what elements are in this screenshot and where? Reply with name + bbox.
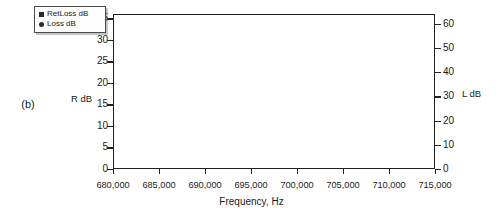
y-tick-right-10: 10 (443, 139, 477, 150)
y-tick-left-15: 15 (74, 98, 108, 109)
chart-legend: RetLoss dB Loss dB (34, 6, 106, 33)
legend-item-retloss: RetLoss dB (39, 9, 102, 19)
round-marker-icon (39, 22, 44, 27)
x-tick-mark (343, 169, 344, 174)
y-tick-right-20: 20 (443, 115, 477, 126)
y-tick-right-50: 50 (443, 42, 477, 53)
y-tick-mark-left (107, 18, 113, 19)
y-tick-mark-right (435, 121, 441, 122)
y-tick-mark-right (435, 72, 441, 73)
y-tick-left-10: 10 (74, 120, 108, 131)
y-tick-left-5: 5 (74, 141, 108, 152)
legend-label-loss: Loss dB (47, 19, 76, 29)
y-tick-left-20: 20 (74, 77, 108, 88)
y-tick-mark-left (107, 61, 113, 62)
y-tick-right-40: 40 (443, 66, 477, 77)
y-tick-mark-left (107, 40, 113, 41)
y-tick-mark-left (107, 126, 113, 127)
x-tick-mark (113, 169, 114, 174)
y-tick-mark-right (435, 24, 441, 25)
figure-panel: (b) R dB L dB Frequency, Hz RetLoss dB L… (0, 0, 503, 216)
y-tick-mark-left (107, 147, 113, 148)
x-tick-mark (297, 169, 298, 174)
square-marker-icon (39, 12, 44, 17)
x-tick-mark (435, 169, 436, 174)
x-tick-mark (389, 169, 390, 174)
y-tick-mark-left (107, 83, 113, 84)
x-tick-mark (251, 169, 252, 174)
y-tick-left-0: 0 (74, 163, 108, 174)
y-tick-right-60: 60 (443, 18, 477, 29)
y-tick-right-30: 30 (443, 90, 477, 101)
plot-area (113, 14, 435, 169)
y-tick-mark-right (435, 145, 441, 146)
legend-label-retloss: RetLoss dB (47, 9, 88, 19)
x-tick-mark (159, 169, 160, 174)
y-tick-left-30: 30 (74, 34, 108, 45)
x-axis-label: Frequency, Hz (0, 196, 503, 207)
y-tick-mark-left (107, 104, 113, 105)
y-tick-right-0: 0 (443, 163, 477, 174)
x-tick-mark (205, 169, 206, 174)
plot-frame (113, 14, 435, 169)
panel-label: (b) (8, 98, 48, 110)
y-tick-left-25: 25 (74, 55, 108, 66)
y-tick-mark-right (435, 96, 441, 97)
legend-item-loss: Loss dB (39, 19, 102, 29)
y-tick-mark-right (435, 48, 441, 49)
x-tick-715000: 715,000 (407, 180, 463, 190)
